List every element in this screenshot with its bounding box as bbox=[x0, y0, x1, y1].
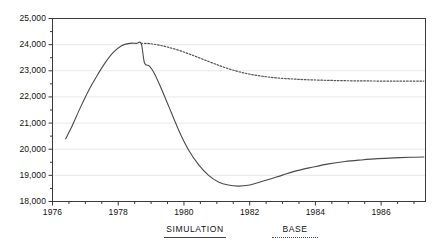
y-axis-label: 18,000 bbox=[0, 196, 46, 206]
legend-line-swatch-solid bbox=[164, 237, 226, 238]
x-axis-label: 1984 bbox=[295, 207, 335, 217]
series-line-simulation bbox=[66, 42, 424, 186]
chart-container: 25,00024,00023,00022,00021,00020,00019,0… bbox=[0, 0, 438, 250]
y-axis-label: 23,000 bbox=[0, 65, 46, 75]
y-axis-label: 22,000 bbox=[0, 91, 46, 101]
chart-legend: SIMULATIONBASE bbox=[0, 224, 438, 250]
legend-label: SIMULATION bbox=[140, 224, 250, 234]
y-axis-label: 21,000 bbox=[0, 118, 46, 128]
x-axis-label: 1982 bbox=[230, 207, 270, 217]
series-line-base bbox=[141, 43, 424, 81]
legend-item-base[interactable]: BASE bbox=[250, 224, 340, 238]
y-axis-label: 24,000 bbox=[0, 39, 46, 49]
x-axis-label: 1976 bbox=[33, 207, 73, 217]
y-axis-label: 20,000 bbox=[0, 144, 46, 154]
y-axis-label: 19,000 bbox=[0, 170, 46, 180]
legend-label: BASE bbox=[250, 224, 340, 234]
legend-item-simulation[interactable]: SIMULATION bbox=[140, 224, 250, 238]
x-axis-label: 1986 bbox=[361, 207, 401, 217]
plot-frame bbox=[53, 19, 426, 202]
legend-line-swatch-dotted bbox=[272, 237, 318, 238]
y-axis-label: 25,000 bbox=[0, 13, 46, 23]
x-axis-label: 1980 bbox=[164, 207, 204, 217]
x-axis-label: 1978 bbox=[98, 207, 138, 217]
